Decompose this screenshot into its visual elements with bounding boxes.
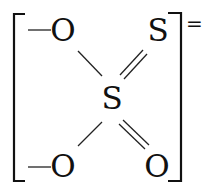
bond-double-top-right (120, 50, 147, 79)
atom-s-central: S (101, 80, 122, 116)
right-bracket (168, 13, 181, 181)
left-bracket (14, 14, 25, 181)
atom-o-top-left: O (50, 12, 75, 48)
bond-single-top-left (78, 51, 102, 76)
atom-s-top-right: S (147, 12, 168, 48)
bond-double-bottom-right (119, 120, 149, 149)
bond-single-bottom-left (78, 122, 102, 146)
atom-o-bottom-right: O (144, 148, 169, 184)
thiosulfate-structure-diagram: = O S S O O (0, 0, 209, 191)
atom-o-bottom-left: O (50, 148, 75, 184)
ion-charge: = (186, 12, 203, 36)
